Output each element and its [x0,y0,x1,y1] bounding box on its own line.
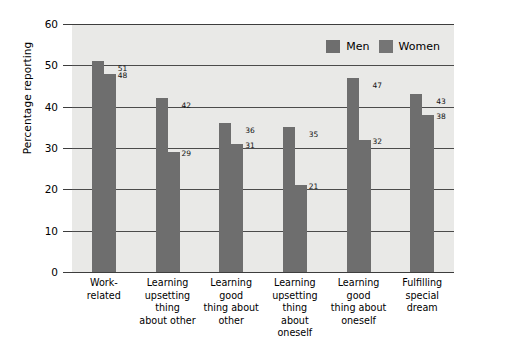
category-label-line: Learning [264,277,326,290]
y-tick-mark-60 [63,24,72,25]
bar-group: 4229 [136,24,200,272]
bar-men: 47 [347,78,359,272]
y-tick-label-40: 40 [32,102,58,113]
y-tick-mark-20 [63,189,72,190]
bar-men: 43 [410,94,422,272]
y-tick-mark-10 [63,231,72,232]
y-tick-mark-50 [63,65,72,66]
y-tick-label-10: 10 [32,226,58,237]
category-label: Learningupsetting thingabout oneself [263,277,327,340]
bar-group: 4732 [327,24,391,272]
bar-group: 3631 [199,24,263,272]
bar-men: 36 [219,123,231,272]
category-label-line: thing about [200,302,262,315]
category-label: Learning goodthing aboutother [199,277,263,340]
bar-value-label: 47 [373,82,383,90]
bar-women: 21 [295,185,307,272]
bar-group: 4338 [390,24,454,272]
y-tick-mark-0 [63,272,72,273]
legend-item-men: Men [326,40,369,53]
bar-value-label: 31 [245,142,255,150]
bar-women: 31 [231,144,243,272]
legend-label-men: Men [346,40,369,53]
legend-swatch-women [379,40,393,53]
bar-pair: 4732 [347,24,371,272]
bar-pair: 3521 [283,24,307,272]
y-tick-mark-30 [63,148,72,149]
bar-group: 5148 [72,24,136,272]
bar-value-label: 38 [436,113,446,121]
legend-swatch-men [326,40,340,53]
category-label-line: oneself [328,315,390,328]
chart-legend: Men Women [326,40,440,53]
category-label-line: upsetting thing [264,290,326,315]
category-labels: Work- relatedLearningupsetting thingabou… [72,277,454,340]
bar-groups: 514842293631352147324338 [72,24,454,272]
category-label-line: thing about [328,302,390,315]
bar-men: 35 [283,127,295,272]
bar-value-label: 21 [309,183,319,191]
bar-men: 51 [92,61,104,272]
bar-men: 42 [156,98,168,272]
category-label-line: about oneself [264,315,326,340]
y-tick-label-30: 30 [32,143,58,154]
y-axis-title: Percentage reporting [21,13,33,183]
category-label-line: other [200,315,262,328]
y-tick-label-60: 60 [32,19,58,30]
category-label-line: upsetting thing [137,290,199,315]
y-tick-label-0: 0 [32,267,58,278]
bar-pair: 4338 [410,24,434,272]
plot-area: 6050403020100 514842293631352147324338 M… [72,24,454,272]
y-tick-label-20: 20 [32,184,58,195]
bar-pair: 5148 [92,24,116,272]
bar-value-label: 36 [245,127,255,135]
category-label: Fulfilling specialdream [390,277,454,340]
bar-pair: 3631 [219,24,243,272]
legend-label-women: Women [399,40,440,53]
category-label-line: about other [137,315,199,328]
category-label: Work- related [72,277,136,340]
bar-pair: 4229 [156,24,180,272]
y-tick-label-50: 50 [32,60,58,71]
bar-women: 32 [359,140,371,272]
bar-women: 48 [104,74,116,272]
bar-value-label: 48 [118,72,128,80]
y-tick-mark-40 [63,107,72,108]
category-label-line: Learning good [328,277,390,302]
category-label: Learning goodthing aboutoneself [327,277,391,340]
bar-group: 3521 [263,24,327,272]
category-label: Learningupsetting thingabout other [136,277,200,340]
bar-value-label: 43 [436,98,446,106]
category-label-line: Fulfilling special [391,277,453,302]
bar-value-label: 29 [182,150,192,158]
bar-women: 29 [168,152,180,272]
gridline-0 [72,272,454,273]
category-label-line: Learning good [200,277,262,302]
bar-value-label: 32 [373,138,383,146]
bar-value-label: 42 [182,102,192,110]
category-label-line: dream [391,302,453,315]
bar-value-label: 35 [309,131,319,139]
bar-women: 38 [422,115,434,272]
category-label-line: Work- related [73,277,135,302]
category-label-line: Learning [137,277,199,290]
legend-item-women: Women [379,40,440,53]
